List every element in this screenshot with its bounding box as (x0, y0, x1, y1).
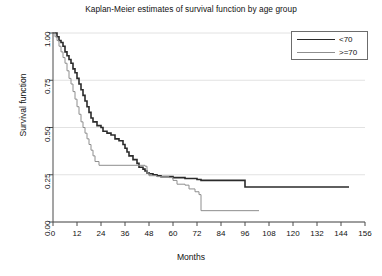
x-tick-label: 96 (233, 229, 257, 238)
y-tick-label: 0.75 (43, 79, 52, 109)
legend: <70 >=70 (291, 31, 368, 60)
legend-line-icon-over-70 (297, 52, 335, 53)
series-line (53, 33, 259, 211)
x-tick-label: 48 (137, 229, 161, 238)
x-tick-label: 24 (89, 229, 113, 238)
y-tick-label: 0.50 (43, 126, 52, 156)
x-tick-label: 108 (257, 229, 281, 238)
y-tick-label: 0.25 (43, 173, 52, 203)
x-tick-label: 72 (185, 229, 209, 238)
legend-item-under-70: <70 (297, 33, 353, 46)
x-tick-label: 36 (113, 229, 137, 238)
x-tick-label: 156 (353, 229, 377, 238)
legend-label-under-70: <70 (339, 35, 353, 44)
kaplan-meier-chart: Kaplan-Meier estimates of survival funct… (0, 0, 382, 276)
x-tick-label: 60 (161, 229, 185, 238)
x-tick-label: 0 (41, 229, 65, 238)
legend-label-over-70: >=70 (339, 48, 357, 57)
x-tick-label: 144 (329, 229, 353, 238)
legend-line-icon-under-70 (297, 39, 335, 40)
x-tick-label: 84 (209, 229, 233, 238)
x-tick-label: 120 (281, 229, 305, 238)
y-tick-label: 1.00 (43, 32, 52, 62)
x-tick-label: 132 (305, 229, 329, 238)
legend-item-over-70: >=70 (297, 46, 357, 59)
x-tick-label: 12 (65, 229, 89, 238)
